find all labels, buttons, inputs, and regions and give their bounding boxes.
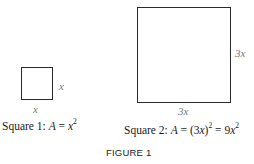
square-1-side-right-label: x	[59, 80, 64, 92]
square-1	[21, 67, 53, 100]
figure-label: FIGURE 1	[106, 147, 151, 158]
square-1-side-bottom-label: x	[33, 103, 38, 115]
square-1-caption: Square 1: A = x2	[2, 120, 77, 132]
square-2	[137, 7, 231, 103]
square-2-side-right-label: 3x	[235, 47, 245, 59]
square-2-caption: Square 2: A = (3x)2 = 9x2	[124, 124, 239, 136]
square-2-side-bottom-label: 3x	[178, 105, 188, 117]
